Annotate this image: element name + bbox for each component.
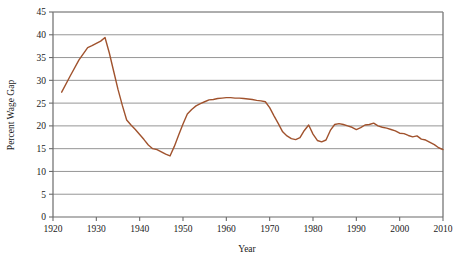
- y-tick-label-20: 20: [37, 121, 47, 131]
- x-axis-title: Year: [238, 244, 256, 254]
- x-tick-label-1950: 1950: [174, 224, 193, 234]
- y-tick-label-15: 15: [37, 144, 47, 154]
- x-tick-label-1980: 1980: [304, 224, 323, 234]
- y-tick-label-40: 40: [37, 30, 47, 40]
- y-tick-label-45: 45: [37, 7, 47, 17]
- x-tick-label-2000: 2000: [390, 224, 409, 234]
- y-tick-label-0: 0: [41, 212, 46, 222]
- x-tick-label-1990: 1990: [347, 224, 366, 234]
- x-tick-label-1920: 1920: [44, 224, 63, 234]
- x-tick-marks-group: [53, 217, 443, 221]
- wage-gap-line-chart: 051015202530354045 192019301940195019601…: [0, 0, 470, 261]
- gridlines-group: [53, 12, 443, 194]
- y-tick-labels-group: 051015202530354045: [37, 7, 47, 222]
- y-tick-label-10: 10: [37, 167, 47, 177]
- y-tick-label-30: 30: [37, 76, 47, 86]
- x-tick-label-1930: 1930: [87, 224, 106, 234]
- x-tick-label-1940: 1940: [130, 224, 149, 234]
- axes-lines-group: [53, 12, 443, 217]
- x-tick-label-1970: 1970: [260, 224, 279, 234]
- y-tick-label-35: 35: [37, 53, 47, 63]
- y-tick-label-5: 5: [41, 190, 46, 200]
- wage-gap-series-line: [62, 38, 443, 156]
- x-tick-label-2010: 2010: [434, 224, 453, 234]
- y-tick-label-25: 25: [37, 99, 47, 109]
- x-tick-labels-group: 1920193019401950196019701980199020002010: [44, 224, 453, 234]
- x-tick-label-1960: 1960: [217, 224, 236, 234]
- chart-page: 051015202530354045 192019301940195019601…: [0, 0, 470, 261]
- y-axis-title: Percent Wage Gap: [6, 80, 16, 151]
